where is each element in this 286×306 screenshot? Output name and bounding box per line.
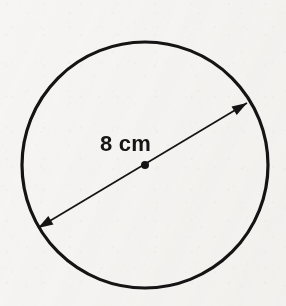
diameter-measurement-label: 8 cm — [100, 133, 151, 155]
circle-diameter-figure: 8 cm — [0, 0, 286, 306]
arrowhead-lower-left-icon — [38, 216, 53, 228]
circle-center-dot — [141, 161, 149, 169]
arrowhead-upper-right-icon — [232, 103, 247, 115]
